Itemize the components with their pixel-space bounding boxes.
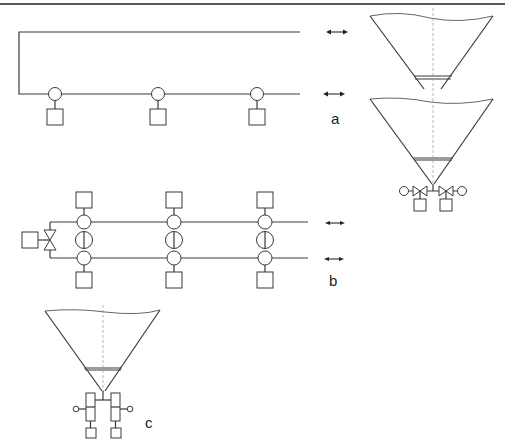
sensor-circle-icon: [400, 187, 409, 196]
box-icon: [86, 428, 96, 438]
actuator-box-icon: [22, 232, 38, 248]
valve-circle-icon: [49, 88, 62, 101]
box-icon: [249, 109, 265, 125]
take-off-1: [47, 88, 63, 126]
drive-circle-icon: [73, 406, 79, 412]
feeder-left: [73, 393, 96, 438]
panel-c: c: [45, 305, 160, 438]
valve-circle-icon: [152, 88, 165, 101]
valve-circle-icon: [258, 215, 272, 229]
valve-icon: [413, 186, 420, 196]
panel-a: a: [19, 8, 493, 211]
valve-circle-icon: [167, 251, 181, 265]
manifold-1: [76, 192, 93, 288]
double-arrow-icon: [325, 221, 345, 225]
manifold-3: [257, 192, 274, 288]
box-icon: [76, 272, 92, 288]
valve-circle-icon: [258, 251, 272, 265]
box-icon: [166, 192, 182, 208]
box-icon: [166, 272, 182, 288]
diagram-canvas: a: [0, 0, 517, 448]
shutoff-valve-icon: [44, 230, 56, 240]
panel-label-b: b: [329, 272, 337, 289]
hopper-1: [370, 8, 493, 100]
box-icon: [257, 192, 273, 208]
take-off-3: [249, 88, 265, 126]
box-icon: [150, 109, 166, 125]
take-off-2: [150, 88, 166, 126]
sensor-circle-icon: [458, 187, 467, 196]
valve-circle-icon: [77, 215, 91, 229]
box-icon: [111, 428, 121, 438]
double-arrow-icon: [323, 92, 345, 97]
valve-circle-icon: [167, 215, 181, 229]
panel-label-a: a: [331, 110, 340, 127]
panel-label-c: c: [145, 414, 153, 431]
box-icon: [440, 199, 452, 211]
loop-pipe: [19, 32, 300, 94]
double-arrow-icon: [324, 257, 344, 261]
valve-circle-icon: [251, 88, 264, 101]
feeder-right: [111, 393, 133, 438]
manifold-2: [166, 192, 183, 288]
box-icon: [257, 272, 273, 288]
valve-icon: [439, 186, 446, 196]
box-icon: [47, 109, 63, 125]
box-icon: [76, 192, 92, 208]
valve-circle-icon: [77, 251, 91, 265]
panel-b: b: [22, 192, 345, 289]
box-icon: [414, 199, 426, 211]
drive-circle-icon: [127, 406, 133, 412]
double-arrow-icon: [326, 30, 348, 35]
hopper-2: [370, 98, 493, 211]
